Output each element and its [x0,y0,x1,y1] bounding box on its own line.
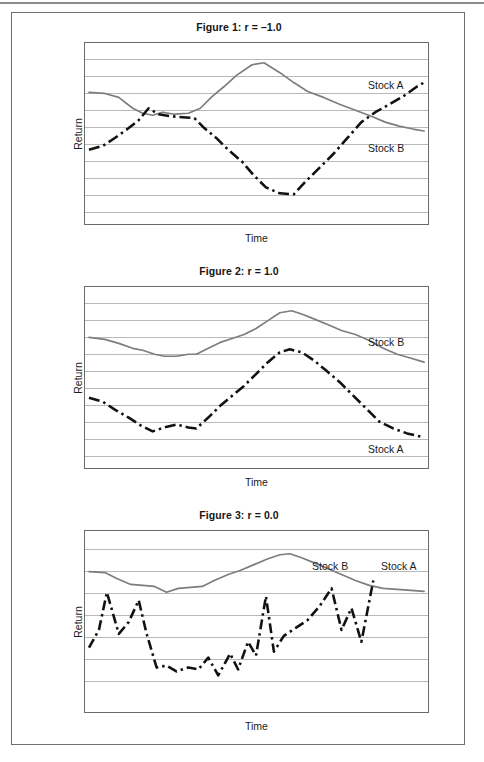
figure-2-label-stock-a: Stock A [368,443,404,455]
figure-3-x-axis-label: Time [84,720,429,732]
figure-1-y-axis-label: Return [72,94,84,174]
page-border-frame: Figure 1: r = –1.0 Return Time S [11,12,465,745]
figure-2: Figure 2: r = 1.0 Return Time St [12,265,466,505]
figure-3-label-stock-a: Stock A [381,560,417,572]
page-top-rule [0,2,484,4]
figure-1-series-svg [85,43,428,224]
figure-3-stock-b-line [89,554,424,593]
figure-3-plot-frame [84,530,429,713]
figure-1: Figure 1: r = –1.0 Return Time S [12,21,466,261]
figure-1-x-axis-label: Time [84,232,429,244]
figure-1-label-stock-a: Stock A [368,79,404,91]
figure-2-title: Figure 2: r = 1.0 [12,265,466,277]
figure-3-label-stock-b: Stock B [312,560,348,572]
figure-2-y-axis-label: Return [72,338,84,418]
figure-1-title: Figure 1: r = –1.0 [12,21,466,33]
figure-2-plot: Return Time Stock B Stock A [84,286,429,469]
figure-2-stock-a-line [89,349,424,437]
figure-3-y-axis-label: Return [72,582,84,662]
figure-1-stock-a-line [89,83,424,195]
figure-1-plot-frame [84,42,429,225]
figure-2-label-stock-b: Stock B [368,336,404,348]
figure-2-series-svg [85,287,428,468]
figure-2-plot-frame [84,286,429,469]
figure-3-stock-a-line [89,580,373,675]
figure-1-label-stock-b: Stock B [368,142,404,154]
figure-3-plot: Return Time Stock B Stock A [84,530,429,713]
figure-3: Figure 3: r = 0.0 Return Time Stock B St… [12,509,466,749]
figure-3-series-svg [85,531,428,712]
figure-1-plot: Return Time Stock A Stock B [84,42,429,225]
figure-3-title: Figure 3: r = 0.0 [12,509,466,521]
figure-2-x-axis-label: Time [84,476,429,488]
